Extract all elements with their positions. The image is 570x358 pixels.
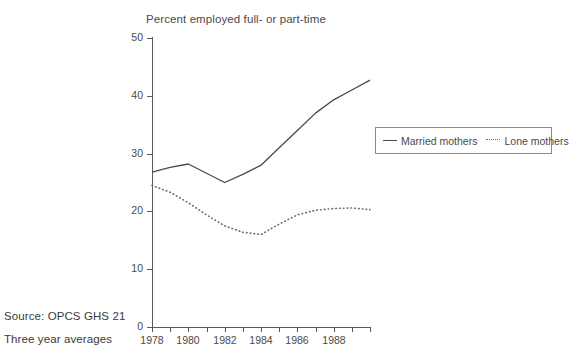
y-axis-line: [152, 37, 153, 328]
x-axis-label: 1986: [277, 334, 317, 346]
x-axis-tick: [207, 327, 208, 332]
chart-legend: Married mothers Lone mothers: [375, 127, 552, 154]
x-axis-tick: [279, 327, 280, 332]
x-axis-label: 1980: [168, 334, 208, 346]
y-axis-tick: [147, 96, 152, 97]
x-axis-label: 1988: [314, 334, 354, 346]
y-axis-label: 30: [119, 147, 143, 159]
averaging-note: Three year averages: [4, 333, 112, 345]
legend-label: Lone mothers: [504, 135, 568, 147]
x-axis-tick: [170, 327, 171, 332]
legend-item-lone-mothers: Lone mothers: [486, 135, 568, 147]
series-line-lone-mothers: [152, 185, 370, 234]
y-axis-tick: [147, 154, 152, 155]
x-axis-tick: [225, 327, 226, 332]
x-axis-label: 1978: [132, 334, 172, 346]
y-axis-tick: [147, 38, 152, 39]
x-axis-tick: [243, 327, 244, 332]
y-axis-label: 50: [119, 31, 143, 43]
x-axis-tick: [352, 327, 353, 332]
chart-title: Percent employed full- or part-time: [146, 13, 326, 25]
x-axis-tick: [188, 327, 189, 332]
y-axis-tick: [147, 269, 152, 270]
y-axis-tick: [147, 211, 152, 212]
x-axis-tick: [297, 327, 298, 332]
y-axis-label: 20: [119, 204, 143, 216]
chart-series-layer: [0, 0, 570, 358]
series-line-married-mothers: [152, 80, 370, 182]
y-axis-label: 40: [119, 89, 143, 101]
y-axis-label: 10: [119, 262, 143, 274]
x-axis-label: 1982: [205, 334, 245, 346]
x-axis-tick: [370, 327, 371, 332]
chart-figure: Percent employed full- or part-time 0102…: [0, 0, 570, 358]
dotted-line-icon: [486, 139, 500, 141]
x-axis-tick: [152, 327, 153, 332]
solid-line-icon: [383, 140, 397, 141]
x-axis-tick: [261, 327, 262, 332]
x-axis-label: 1984: [241, 334, 281, 346]
x-axis-tick: [316, 327, 317, 332]
legend-label: Married mothers: [401, 135, 477, 147]
source-note: Source: OPCS GHS 21: [4, 310, 125, 322]
x-axis-tick: [334, 327, 335, 332]
legend-item-married-mothers: Married mothers: [383, 135, 477, 147]
